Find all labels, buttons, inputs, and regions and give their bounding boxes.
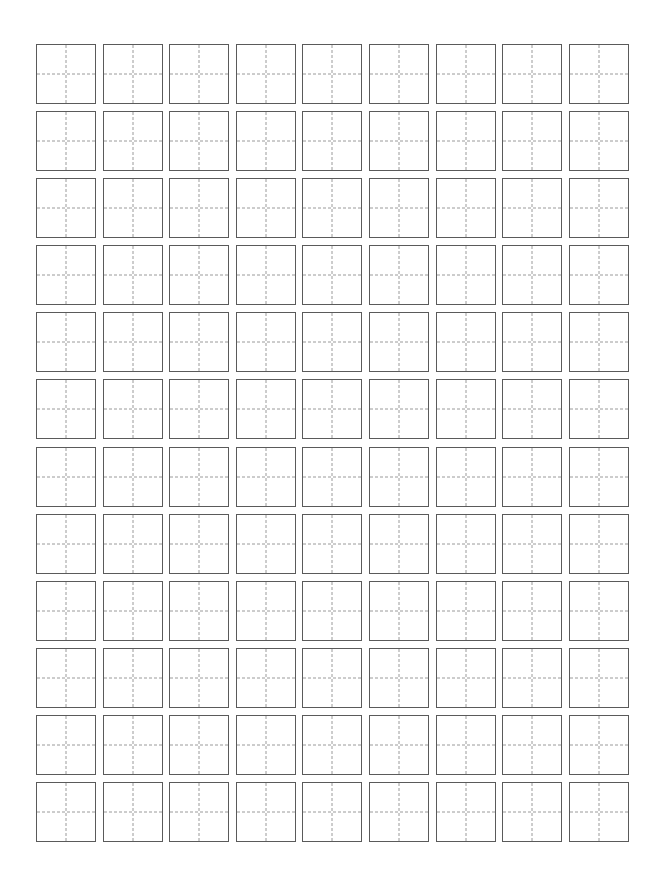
practice-cell[interactable] [369, 782, 429, 842]
practice-cell[interactable] [302, 514, 362, 574]
practice-cell[interactable] [103, 245, 163, 305]
practice-cell[interactable] [502, 379, 562, 439]
practice-cell[interactable] [36, 782, 96, 842]
practice-cell[interactable] [36, 581, 96, 641]
practice-cell[interactable] [103, 44, 163, 104]
practice-cell[interactable] [369, 581, 429, 641]
practice-cell[interactable] [236, 111, 296, 171]
practice-cell[interactable] [236, 447, 296, 507]
practice-cell[interactable] [169, 44, 229, 104]
practice-cell[interactable] [436, 581, 496, 641]
practice-cell[interactable] [36, 44, 96, 104]
practice-cell[interactable] [236, 178, 296, 238]
practice-cell[interactable] [502, 514, 562, 574]
practice-cell[interactable] [236, 648, 296, 708]
practice-cell[interactable] [302, 312, 362, 372]
practice-cell[interactable] [36, 178, 96, 238]
practice-cell[interactable] [569, 245, 629, 305]
practice-cell[interactable] [103, 178, 163, 238]
practice-cell[interactable] [502, 111, 562, 171]
practice-cell[interactable] [369, 312, 429, 372]
practice-cell[interactable] [436, 44, 496, 104]
practice-cell[interactable] [236, 514, 296, 574]
practice-cell[interactable] [502, 178, 562, 238]
practice-cell[interactable] [302, 379, 362, 439]
practice-cell[interactable] [236, 44, 296, 104]
practice-cell[interactable] [502, 782, 562, 842]
practice-cell[interactable] [236, 715, 296, 775]
practice-cell[interactable] [502, 447, 562, 507]
practice-cell[interactable] [569, 648, 629, 708]
practice-cell[interactable] [569, 178, 629, 238]
practice-cell[interactable] [436, 245, 496, 305]
practice-cell[interactable] [369, 447, 429, 507]
practice-cell[interactable] [103, 514, 163, 574]
practice-cell[interactable] [36, 447, 96, 507]
practice-cell[interactable] [169, 514, 229, 574]
practice-cell[interactable] [103, 111, 163, 171]
practice-cell[interactable] [169, 178, 229, 238]
practice-cell[interactable] [103, 581, 163, 641]
practice-cell[interactable] [369, 178, 429, 238]
practice-cell[interactable] [436, 782, 496, 842]
practice-cell[interactable] [502, 581, 562, 641]
practice-cell[interactable] [569, 111, 629, 171]
practice-cell[interactable] [436, 312, 496, 372]
practice-cell[interactable] [103, 312, 163, 372]
practice-cell[interactable] [236, 782, 296, 842]
practice-cell[interactable] [436, 648, 496, 708]
practice-cell[interactable] [502, 715, 562, 775]
practice-cell[interactable] [302, 178, 362, 238]
practice-cell[interactable] [569, 514, 629, 574]
practice-cell[interactable] [103, 648, 163, 708]
practice-cell[interactable] [502, 312, 562, 372]
practice-cell[interactable] [436, 514, 496, 574]
practice-cell[interactable] [502, 245, 562, 305]
practice-cell[interactable] [169, 648, 229, 708]
practice-cell[interactable] [36, 379, 96, 439]
practice-cell[interactable] [169, 245, 229, 305]
practice-cell[interactable] [36, 312, 96, 372]
practice-cell[interactable] [169, 581, 229, 641]
practice-cell[interactable] [436, 111, 496, 171]
practice-cell[interactable] [169, 111, 229, 171]
practice-cell[interactable] [36, 111, 96, 171]
practice-cell[interactable] [369, 245, 429, 305]
practice-cell[interactable] [236, 312, 296, 372]
practice-cell[interactable] [369, 44, 429, 104]
practice-cell[interactable] [103, 379, 163, 439]
practice-cell[interactable] [236, 245, 296, 305]
practice-cell[interactable] [36, 514, 96, 574]
practice-cell[interactable] [369, 379, 429, 439]
practice-cell[interactable] [302, 648, 362, 708]
practice-cell[interactable] [436, 447, 496, 507]
practice-cell[interactable] [169, 312, 229, 372]
practice-cell[interactable] [369, 111, 429, 171]
practice-cell[interactable] [569, 581, 629, 641]
practice-cell[interactable] [569, 379, 629, 439]
practice-cell[interactable] [569, 447, 629, 507]
practice-cell[interactable] [436, 178, 496, 238]
practice-cell[interactable] [302, 581, 362, 641]
practice-cell[interactable] [502, 44, 562, 104]
practice-cell[interactable] [236, 379, 296, 439]
practice-cell[interactable] [36, 715, 96, 775]
practice-cell[interactable] [36, 245, 96, 305]
practice-cell[interactable] [36, 648, 96, 708]
practice-cell[interactable] [169, 447, 229, 507]
practice-cell[interactable] [169, 379, 229, 439]
practice-cell[interactable] [369, 648, 429, 708]
practice-cell[interactable] [302, 715, 362, 775]
practice-cell[interactable] [169, 715, 229, 775]
practice-cell[interactable] [103, 447, 163, 507]
practice-cell[interactable] [302, 782, 362, 842]
practice-cell[interactable] [369, 715, 429, 775]
practice-cell[interactable] [302, 245, 362, 305]
practice-cell[interactable] [436, 379, 496, 439]
practice-cell[interactable] [302, 44, 362, 104]
practice-cell[interactable] [169, 782, 229, 842]
practice-cell[interactable] [236, 581, 296, 641]
practice-cell[interactable] [569, 715, 629, 775]
practice-cell[interactable] [103, 782, 163, 842]
practice-cell[interactable] [302, 447, 362, 507]
